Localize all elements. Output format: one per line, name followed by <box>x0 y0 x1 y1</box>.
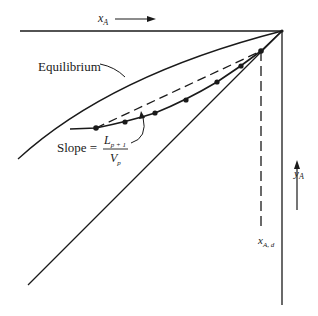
stage-point <box>152 110 157 115</box>
equilibrium-pointer <box>100 64 125 77</box>
stage-point <box>183 97 188 102</box>
stage-point <box>122 119 127 124</box>
slope-numerator: Lp + 1 <box>103 133 126 149</box>
stage-point <box>93 125 99 131</box>
slope-label: Slope = <box>57 140 97 155</box>
diagram-canvas: xA yA Equilibrium Slope = Lp + 1 Vp xA, … <box>0 0 318 316</box>
equilibrium-label: Equilibrium <box>38 59 101 74</box>
stage-point <box>258 48 264 54</box>
slope-pointer <box>131 117 144 143</box>
x-arrowhead-icon <box>147 16 156 22</box>
stage-point <box>238 63 243 68</box>
xd-label: xA, d <box>257 234 275 249</box>
stage-point <box>214 79 219 84</box>
x-axis-label: xA <box>97 11 108 27</box>
operating-curve <box>70 31 282 129</box>
slope-denominator: Vp <box>110 151 121 167</box>
y-axis-label: yA <box>293 167 304 181</box>
corner-point <box>280 29 283 32</box>
slope-arrowhead-icon <box>139 111 145 119</box>
